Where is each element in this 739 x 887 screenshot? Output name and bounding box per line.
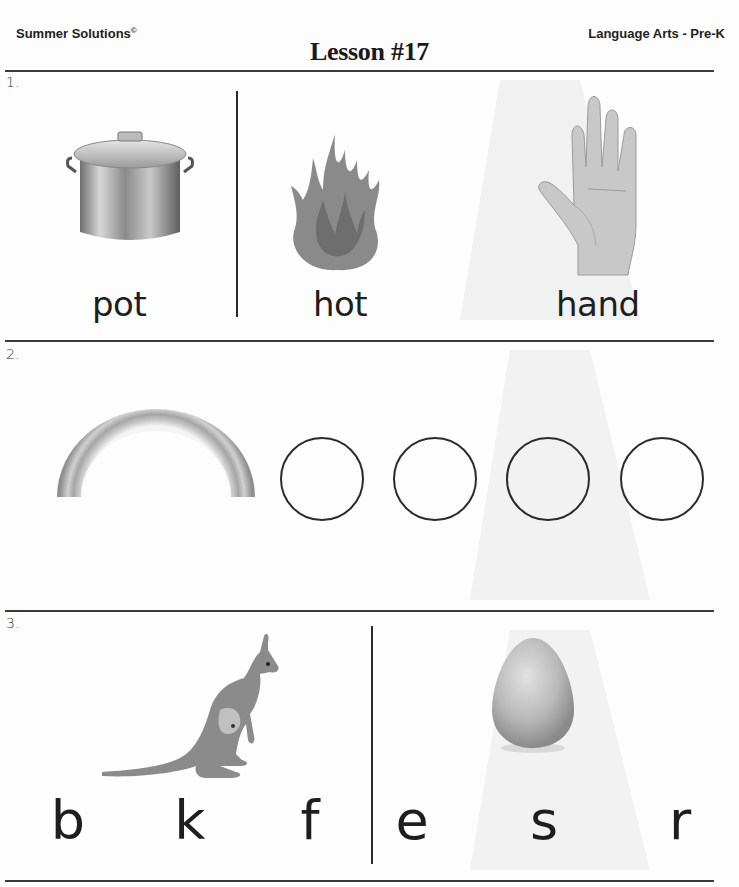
section-rule: [5, 880, 714, 882]
letter-choice-r[interactable]: r: [650, 789, 710, 852]
section-1-divider: [236, 91, 238, 317]
letter-choice-e[interactable]: e: [382, 789, 442, 852]
section-number: 3.: [6, 615, 19, 631]
section-3-divider: [371, 626, 373, 864]
letter-choice-b[interactable]: b: [38, 789, 98, 852]
letter-choice-k[interactable]: k: [160, 789, 220, 852]
section-number: 1.: [6, 74, 19, 90]
answer-circle-3[interactable]: [506, 437, 590, 521]
hand-icon: [538, 95, 658, 277]
egg-icon: [488, 636, 578, 756]
page-title: Lesson #17: [0, 37, 739, 67]
letter-choice-f[interactable]: f: [280, 789, 340, 852]
letter-choice-s[interactable]: s: [514, 789, 574, 852]
word-hot: hot: [313, 284, 367, 324]
rainbow-icon: [55, 405, 257, 499]
section-number: 2.: [6, 346, 19, 362]
copyright-mark: ©: [131, 26, 137, 35]
pot-icon: [66, 128, 194, 246]
word-hand: hand: [556, 284, 640, 324]
word-pot: pot: [92, 284, 146, 324]
kangaroo-icon: [100, 630, 285, 780]
section-rule: [5, 340, 714, 342]
header-rule: [5, 70, 714, 72]
answer-circle-2[interactable]: [393, 437, 477, 521]
answer-circle-1[interactable]: [280, 437, 364, 521]
fire-icon: [287, 130, 385, 274]
section-rule: [5, 610, 714, 612]
answer-circle-4[interactable]: [620, 437, 704, 521]
